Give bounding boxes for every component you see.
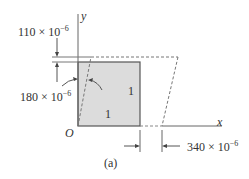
- side-length-label-bottom: 1: [105, 108, 111, 120]
- top-offset-label: 110 × 10−6: [18, 26, 69, 38]
- angle-strain-label: 180 × 10−6: [20, 91, 71, 103]
- figure-caption: (a): [104, 157, 117, 169]
- origin-label: O: [65, 127, 74, 139]
- deformed-right: [162, 57, 178, 126]
- y-axis-label: y: [81, 10, 86, 22]
- bottom-offset-label: 340 × 10−6: [187, 141, 238, 153]
- side-length-label-right: 1: [128, 85, 134, 97]
- x-axis-label: x: [217, 116, 222, 128]
